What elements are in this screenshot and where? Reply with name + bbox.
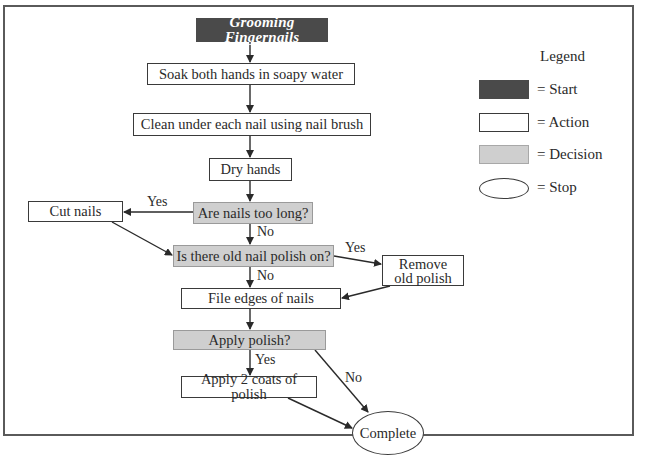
decision-node-apply-polish: Apply polish? (173, 330, 326, 350)
decision-node-nails-too-long: Are nails too long? (193, 202, 313, 224)
action-node-dry-hands: Dry hands (209, 158, 292, 181)
action-node-apply-coats: Apply 2 coats of polish (181, 376, 317, 398)
decision-node-old-polish: Is there old nail polish on? (173, 245, 334, 267)
legend-start-swatch (479, 80, 529, 99)
legend-action-label: = Action (537, 114, 589, 131)
edge-label-old-polish-no: No (257, 268, 274, 284)
edge-label-too-long-yes: Yes (147, 194, 167, 210)
legend-start-label: = Start (537, 81, 578, 98)
action-node-soak-hands: Soak both hands in soapy water (147, 63, 355, 85)
edge-label-old-polish-yes: Yes (345, 240, 365, 256)
edge-label-too-long-no: No (257, 224, 274, 240)
action-node-cut-nails: Cut nails (28, 201, 123, 222)
legend-stop-swatch (479, 178, 529, 199)
action-node-remove-old-polish: Remove old polish (382, 255, 464, 286)
edge-label-apply-no: No (345, 370, 362, 386)
legend-action-swatch (479, 113, 529, 132)
legend-stop-label: = Stop (537, 179, 577, 196)
edge-label-apply-yes: Yes (255, 352, 275, 368)
start-node-grooming-fingernails: Grooming Fingernails (196, 18, 328, 42)
action-node-file-edges: File edges of nails (181, 288, 341, 309)
action-node-clean-nails: Clean under each nail using nail brush (133, 113, 371, 136)
legend-decision-label: = Decision (537, 146, 603, 163)
legend-decision-swatch (479, 145, 529, 164)
legend-title: Legend (540, 48, 585, 65)
stop-node-complete: Complete (352, 411, 424, 455)
